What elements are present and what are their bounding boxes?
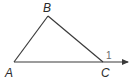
triangle-diagram: A B C 1	[0, 0, 137, 82]
vertex-label-c: C	[101, 66, 110, 80]
angle-label-1: 1	[106, 50, 112, 61]
vertex-label-a: A	[4, 66, 13, 80]
vertex-label-b: B	[43, 1, 51, 15]
side-ab	[14, 16, 48, 62]
side-bc	[48, 16, 103, 62]
